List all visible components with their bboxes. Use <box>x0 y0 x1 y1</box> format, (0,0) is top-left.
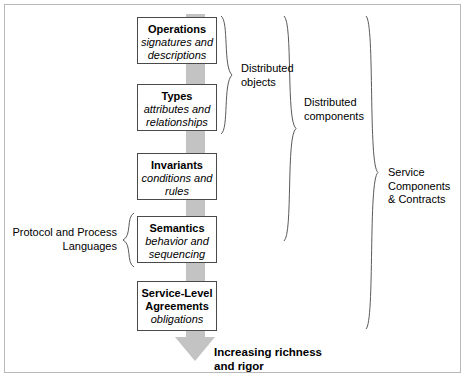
node-invariants-title: Invariants <box>138 159 216 172</box>
node-operations-subtitle: signatures and descriptions <box>138 36 216 62</box>
label-service-components-contracts: Service Components & Contracts <box>388 166 468 207</box>
increasing-richness-arrow-head <box>175 337 215 361</box>
node-semantics-title: Semantics <box>138 222 216 235</box>
diagram-canvas: Operations signatures and descriptions T… <box>0 0 471 387</box>
node-invariants-subtitle: conditions and rules <box>138 172 216 198</box>
node-operations[interactable]: Operations signatures and descriptions <box>137 17 217 64</box>
brace-distributed-objects <box>220 15 234 135</box>
brace-service-components-contracts <box>364 15 380 330</box>
label-increasing-richness-and-rigor: Increasing richness and rigor <box>214 345 354 373</box>
node-semantics-subtitle: behavior and sequencing <box>138 235 216 261</box>
node-operations-title: Operations <box>138 23 216 36</box>
brace-protocol-process-languages <box>121 212 135 268</box>
node-types-title: Types <box>138 90 216 103</box>
node-sla-subtitle: obligations <box>138 313 216 326</box>
brace-distributed-components <box>282 15 298 242</box>
node-service-level-agreements[interactable]: Service-Level Agreements obligations <box>137 281 217 331</box>
label-distributed-objects: Distributed objects <box>241 62 311 89</box>
node-types-subtitle: attributes and relationships <box>138 103 216 129</box>
node-invariants[interactable]: Invariants conditions and rules <box>137 153 217 200</box>
node-sla-title: Service-Level Agreements <box>138 287 216 313</box>
node-types[interactable]: Types attributes and relationships <box>137 84 217 131</box>
label-protocol-process-languages: Protocol and Process Languages <box>10 226 117 253</box>
label-distributed-components: Distributed components <box>304 96 394 123</box>
node-semantics[interactable]: Semantics behavior and sequencing <box>137 216 217 263</box>
